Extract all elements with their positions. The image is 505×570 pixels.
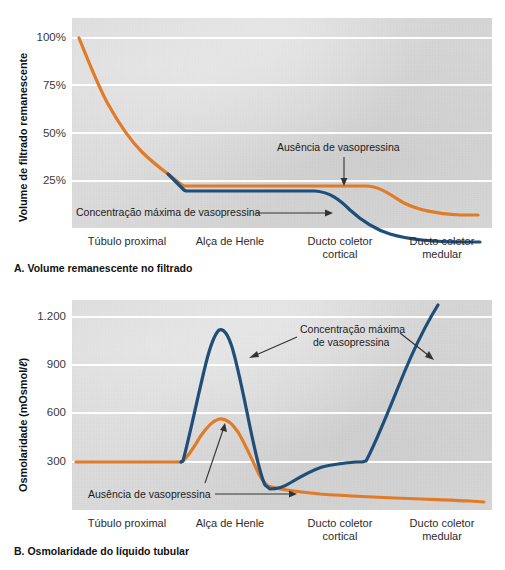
caption-b: B. Osmolaridade do líquido tubular (14, 545, 189, 557)
x-tick-a-1: Alça de Henle (170, 235, 290, 248)
y-axis-title-b: Osmolaridade (mOsmol/ℓ) (17, 358, 29, 492)
annotation-a-no-vasopressin: Ausência de vasopressina (277, 141, 400, 154)
x-tick-b-2: Ducto coletor cortical (292, 517, 388, 543)
annotation-b-max-vasopressin: Concentração máxima de vasopressina (300, 323, 450, 349)
y-tick-a-0: 100% (20, 31, 66, 43)
x-tick-a-3-line2: medular (394, 248, 490, 261)
caption-a: A. Volume remanescente no filtrado (14, 262, 192, 274)
annotation-b-no-vasopressin-text: Ausência de vasopressina (88, 488, 211, 500)
gridlines-a (72, 38, 492, 181)
y-tick-a-1: 75% (20, 79, 66, 91)
annotation-a-max-vasopressin-text: Concentração máxima de vasopressina (76, 206, 260, 218)
y-tick-b-3: 300 (14, 455, 66, 467)
panel-a-volume-remanescente: Volume de filtrado remanescente 100% 75%… (0, 0, 505, 285)
x-tick-b-3-line2: medular (394, 530, 490, 543)
annotation-a-max-vasopressin: Concentração máxima de vasopressina (76, 206, 260, 219)
x-tick-a-1-line1: Alça de Henle (170, 235, 290, 248)
x-tick-b-3-line1: Ducto coletor (394, 517, 490, 530)
annotation-arrow-a-max-vasopressin (256, 210, 333, 217)
x-tick-a-2-line1: Ducto coletor (292, 235, 388, 248)
x-tick-b-1: Alça de Henle (170, 517, 290, 530)
annotation-arrow-b-no-vasopressin-peak (205, 423, 227, 483)
y-tick-b-2: 600 (14, 406, 66, 418)
y-axis-title-b-main: Osmolaridade (mOsmol/ (17, 367, 29, 492)
annotation-a-no-vasopressin-text: Ausência de vasopressina (277, 141, 400, 153)
annotation-arrow-b-max-vasopressin-left (249, 337, 297, 358)
x-tick-b-1-line1: Alça de Henle (170, 517, 290, 530)
y-tick-a-3: 25% (20, 174, 66, 186)
y-tick-b-1: 900 (14, 358, 66, 370)
y-tick-a-2: 50% (20, 127, 66, 139)
x-tick-a-3-line1: Ducto coletor (394, 235, 490, 248)
x-tick-b-2-line2: cortical (292, 530, 388, 543)
x-tick-b-3: Ducto coletor medular (394, 517, 490, 543)
x-tick-b-2-line1: Ducto coletor (292, 517, 388, 530)
annotation-b-max-vasopressin-line1: Concentração máxima (300, 323, 450, 336)
annotation-arrow-b-no-vasopressin-tail (215, 491, 297, 498)
x-tick-a-3: Ducto coletor medular (394, 235, 490, 261)
annotation-b-max-vasopressin-line2: de vasopressina (300, 336, 450, 349)
x-tick-a-2: Ducto coletor cortical (292, 235, 388, 261)
panel-b-osmolaridade: Osmolaridade (mOsmol/ℓ) 1.200 900 600 30… (0, 285, 505, 570)
curve-a-no-vasopressin (79, 38, 478, 215)
x-tick-a-2-line2: cortical (292, 248, 388, 261)
y-tick-b-0: 1.200 (14, 310, 66, 322)
annotation-b-no-vasopressin: Ausência de vasopressina (88, 488, 211, 501)
